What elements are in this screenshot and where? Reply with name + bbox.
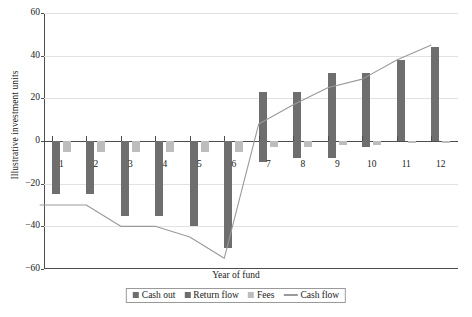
legend-item[interactable]: Fees [248, 290, 274, 300]
x-tick-label: 11 [402, 159, 411, 169]
legend-label: Fees [257, 290, 274, 300]
legend-item[interactable]: Cash flow [283, 290, 339, 300]
x-tick-mark [121, 136, 122, 141]
x-tick-label: 5 [197, 159, 202, 169]
x-tick-label: 1 [59, 159, 64, 169]
x-tick-mark [52, 136, 53, 141]
y-tick-label: 40 [31, 51, 41, 61]
x-tick-label: 10 [367, 159, 377, 169]
plot-area: 6040200−20−40−60 123456789101112 [44, 13, 458, 269]
legend-square-swatch-icon [133, 292, 139, 298]
legend-item[interactable]: Cash out [133, 290, 176, 300]
x-tick-mark [190, 136, 191, 141]
x-tick-label: 4 [162, 159, 167, 169]
legend-square-swatch-icon [248, 292, 254, 298]
chart-legend: Cash outReturn flowFeesCash flow [126, 288, 346, 303]
x-tick-label: 9 [335, 159, 340, 169]
x-tick-label: 3 [128, 159, 133, 169]
chart-figure: Illustrative investment units 6040200−20… [0, 0, 472, 317]
x-tick-mark [431, 136, 432, 141]
cash-flow-line [44, 13, 458, 269]
x-tick-mark [362, 136, 363, 141]
x-tick-label: 8 [300, 159, 305, 169]
y-axis-label: Illustrative investment units [10, 25, 20, 225]
y-tick-label: 60 [31, 8, 41, 18]
x-axis-label: Year of fund [0, 270, 472, 280]
x-tick-label: 7 [266, 159, 271, 169]
legend-item[interactable]: Return flow [184, 290, 239, 300]
x-tick-mark [224, 136, 225, 141]
x-tick-mark [328, 136, 329, 141]
cash-flow-path [40, 45, 432, 258]
legend-label: Return flow [193, 290, 239, 300]
x-tick-label: 2 [93, 159, 98, 169]
legend-square-swatch-icon [184, 292, 190, 298]
y-tick-label: 20 [31, 94, 41, 104]
x-tick-mark [155, 136, 156, 141]
legend-label: Cash flow [300, 290, 339, 300]
x-tick-label: 6 [231, 159, 236, 169]
x-tick-mark [293, 136, 294, 141]
x-tick-label: 12 [436, 159, 446, 169]
x-tick-mark [259, 136, 260, 141]
legend-line-swatch-icon [283, 294, 297, 296]
x-tick-mark [86, 136, 87, 141]
legend-label: Cash out [142, 290, 176, 300]
y-tick-label: −40 [25, 222, 40, 232]
y-tick-label: 0 [35, 136, 40, 146]
x-tick-mark [397, 136, 398, 141]
y-tick-label: −20 [25, 179, 40, 189]
